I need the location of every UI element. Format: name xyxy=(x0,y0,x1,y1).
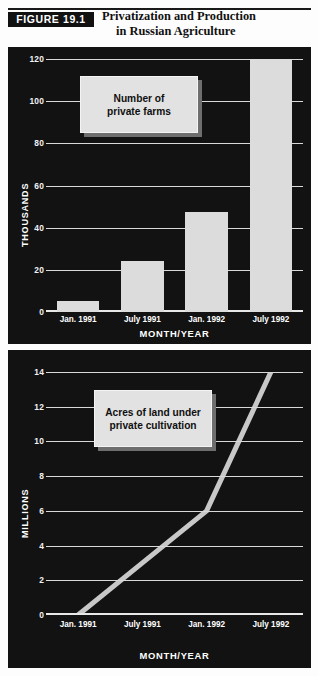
line-chart-panel: 02468101214 MILLIONS Acres of land under… xyxy=(8,350,311,668)
line-chart-x-axis-label: MONTH/YEAR xyxy=(46,650,303,661)
callout-line-2: private farms xyxy=(107,105,171,118)
bar-chart-y-tick-label: 0 xyxy=(10,307,44,317)
line-chart-gridline xyxy=(46,372,303,373)
line-chart-gridline xyxy=(46,580,303,581)
bar-chart-bar xyxy=(121,261,163,312)
bar-chart-panel: 020406080100120 THOUSANDS Number of priv… xyxy=(8,47,311,344)
bar-chart-x-axis-label: MONTH/YEAR xyxy=(46,328,303,339)
figure-page: FIGURE 19.1 Privatization and Production… xyxy=(0,0,319,676)
line-chart-x-tick-label: Jan. 1991 xyxy=(46,620,110,629)
bar-chart-bar xyxy=(57,301,99,312)
line-chart-y-tick-label: 2 xyxy=(10,575,44,585)
bar-chart-y-tick-label: 100 xyxy=(10,96,44,106)
bar-chart-x-tick-label: July 1992 xyxy=(239,315,303,324)
bar-chart-bar xyxy=(185,212,227,312)
line-chart-gridline xyxy=(46,546,303,547)
line-chart-y-tick-label: 8 xyxy=(10,471,44,481)
bar-chart-y-tick-label: 20 xyxy=(10,265,44,275)
line-chart-y-tick-label: 10 xyxy=(10,436,44,446)
bar-chart-y-tick-label: 80 xyxy=(10,138,44,148)
line-chart-x-tick-label: July 1992 xyxy=(239,620,303,629)
line-chart-y-tick-label: 14 xyxy=(10,367,44,377)
callout-box: Acres of land under private cultivation xyxy=(94,390,212,447)
callout-line-1: Acres of land under xyxy=(105,406,201,419)
callout-line-2: private cultivation xyxy=(109,419,196,432)
bar-chart-bar xyxy=(250,59,292,312)
line-chart-gridline xyxy=(46,511,303,512)
figure-title: Privatization and Production in Russian … xyxy=(102,9,312,38)
callout-box: Number of private farms xyxy=(80,76,198,133)
line-chart-x-tick-label: July 1991 xyxy=(110,620,174,629)
bar-chart-x-tick-label: July 1991 xyxy=(110,315,174,324)
bar-chart-y-axis-label: THOUSANDS xyxy=(20,183,30,247)
line-chart-x-tick-label: Jan. 1992 xyxy=(175,620,239,629)
bar-chart-x-tick-label: Jan. 1992 xyxy=(175,315,239,324)
figure-title-line-2: in Russian Agriculture xyxy=(102,24,312,39)
bar-chart-legend-callout: Number of private farms xyxy=(80,76,198,133)
figure-title-line-1: Privatization and Production xyxy=(102,9,312,24)
line-chart-y-tick-label: 4 xyxy=(10,541,44,551)
figure-number-badge: FIGURE 19.1 xyxy=(8,12,94,27)
figure-header: FIGURE 19.1 Privatization and Production… xyxy=(8,8,311,48)
line-chart-y-axis-label: MILLIONS xyxy=(20,489,30,538)
callout-line-1: Number of xyxy=(114,92,165,105)
bar-chart-x-tick-label: Jan. 1991 xyxy=(46,315,110,324)
line-chart-legend-callout: Acres of land under private cultivation xyxy=(94,390,212,447)
line-chart-gridline xyxy=(46,476,303,477)
line-chart-gridline xyxy=(46,613,303,615)
bar-chart-y-tick-label: 120 xyxy=(10,54,44,64)
line-chart-y-tick-label: 0 xyxy=(10,610,44,620)
line-chart-y-tick-label: 12 xyxy=(10,402,44,412)
